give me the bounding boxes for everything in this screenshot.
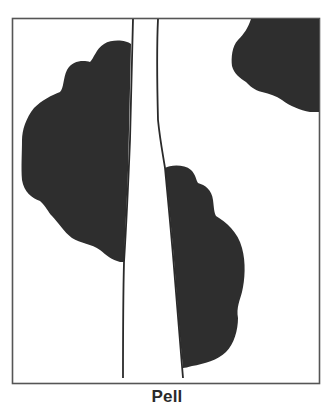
- canopy-right-lower: [165, 166, 245, 368]
- map-figure: [0, 0, 326, 408]
- canopy-top-right: [232, 19, 319, 112]
- figure-caption: Pell: [0, 387, 326, 407]
- canopy-left: [22, 41, 131, 262]
